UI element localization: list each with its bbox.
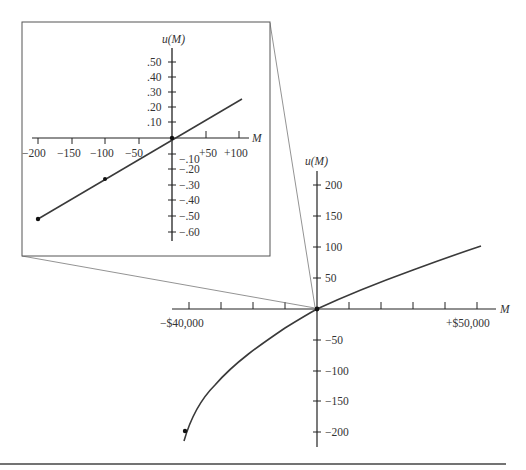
svg-text:−100: −100	[325, 365, 349, 377]
utility-chart: −$40,000 +$50,000 M u(M) 200 150 100 50 …	[0, 0, 526, 470]
svg-text:100: 100	[325, 241, 343, 253]
svg-text:−.60: −.60	[179, 226, 200, 238]
svg-text:−50: −50	[125, 147, 143, 159]
inset-x-axis-title: M	[251, 132, 263, 144]
svg-text:.20: .20	[147, 101, 162, 113]
main-x-axis-title: M	[499, 303, 511, 315]
inset-point-origin	[170, 136, 174, 140]
svg-text:+100: +100	[224, 147, 248, 159]
svg-text:.10: .10	[147, 116, 162, 128]
svg-text:−200: −200	[325, 426, 349, 438]
svg-text:−200: −200	[22, 147, 46, 159]
svg-text:+50: +50	[199, 147, 217, 159]
inset-frame	[22, 22, 270, 256]
inset-y-tick-labels-negative: −.10 −.20 −.30 −.40 −.50 −.60	[179, 153, 200, 238]
svg-text:−100: −100	[90, 147, 114, 159]
main-x-label-left: −$40,000	[160, 317, 204, 330]
svg-text:−.20: −.20	[179, 163, 200, 175]
inset-y-axis-title: u(M)	[162, 33, 185, 46]
main-point-low	[183, 429, 187, 433]
svg-text:.40: .40	[147, 71, 162, 83]
zoom-line-bottom	[22, 256, 315, 308]
main-x-label-right: +$50,000	[446, 317, 490, 330]
svg-text:−.40: −.40	[179, 194, 200, 206]
svg-text:−50: −50	[325, 334, 343, 346]
main-x-ticks	[189, 302, 477, 309]
inset-point-minus-200	[36, 217, 40, 221]
svg-text:50: 50	[325, 272, 337, 284]
svg-text:−.30: −.30	[179, 179, 200, 191]
inset-plot: −200 −150 −100 −50 +50 +100 M u(M) .50 .…	[22, 22, 270, 256]
svg-text:.30: .30	[147, 86, 162, 98]
svg-text:200: 200	[325, 179, 343, 191]
svg-text:−150: −150	[57, 147, 81, 159]
inset-y-tick-labels-positive: .50 .40 .30 .20 .10	[147, 56, 162, 128]
svg-text:−.50: −.50	[179, 210, 200, 222]
main-y-axis-title: u(M)	[305, 155, 328, 168]
svg-text:−150: −150	[325, 395, 349, 407]
svg-text:.50: .50	[147, 56, 162, 68]
inset-point-minus-100	[103, 177, 107, 181]
main-point-origin	[315, 307, 320, 312]
svg-text:150: 150	[325, 210, 343, 222]
